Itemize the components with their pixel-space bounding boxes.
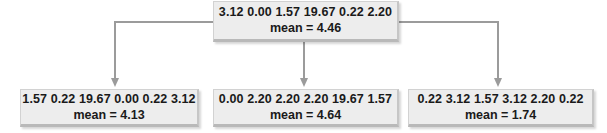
resample-box-3: 0.22 3.12 1.57 3.12 2.20 0.22 mean = 1.7… <box>408 89 594 127</box>
resample-1-values: 1.57 0.22 19.67 0.00 0.22 3.12 <box>22 92 195 107</box>
root-sample-box: 3.12 0.00 1.57 19.67 0.22 2.20 mean = 4.… <box>213 1 399 42</box>
connector-to-left-child <box>115 22 213 79</box>
connector-to-right-child <box>399 22 498 79</box>
root-values: 3.12 0.00 1.57 19.67 0.22 2.20 <box>219 5 392 20</box>
resample-2-mean: mean = 4.64 <box>270 108 341 123</box>
resample-2-values: 0.00 2.20 2.20 2.20 19.67 1.57 <box>219 92 392 107</box>
root-mean: mean = 4.46 <box>270 21 341 36</box>
resample-3-mean: mean = 1.74 <box>465 108 536 123</box>
resample-3-values: 0.22 3.12 1.57 3.12 2.20 0.22 <box>417 92 583 107</box>
diagram-canvas: 3.12 0.00 1.57 19.67 0.22 2.20 mean = 4.… <box>0 0 607 133</box>
resample-box-2: 0.00 2.20 2.20 2.20 19.67 1.57 mean = 4.… <box>213 89 399 127</box>
resample-box-1: 1.57 0.22 19.67 0.00 0.22 3.12 mean = 4.… <box>20 89 199 127</box>
resample-1-mean: mean = 4.13 <box>73 108 144 123</box>
